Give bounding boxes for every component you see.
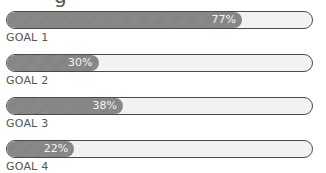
goal-label: GOAL 4	[6, 161, 48, 173]
goal-row-2: 30% GOAL 2	[6, 54, 315, 94]
goal-row-4: 22% GOAL 4	[6, 140, 315, 173]
progress-track: 22%	[6, 140, 313, 158]
progress-track: 77%	[6, 11, 313, 29]
goal-row-1: 77% GOAL 1	[6, 11, 315, 51]
goal-row-3: 38% GOAL 3	[6, 97, 315, 137]
progress-fill: 38%	[7, 98, 123, 114]
goal-label: GOAL 3	[6, 118, 48, 130]
progress-fill: 22%	[7, 141, 74, 157]
progress-fill: 77%	[7, 12, 242, 28]
progress-track: 38%	[6, 97, 313, 115]
title-fragment: g	[54, 0, 67, 6]
progress-percent: 38%	[92, 98, 116, 114]
goal-label: GOAL 1	[6, 32, 48, 44]
progress-track: 30%	[6, 54, 313, 72]
progress-percent: 30%	[68, 55, 92, 71]
progress-percent: 77%	[211, 12, 235, 28]
progress-fill: 30%	[7, 55, 99, 71]
goal-label: GOAL 2	[6, 75, 48, 87]
progress-percent: 22%	[44, 141, 68, 157]
